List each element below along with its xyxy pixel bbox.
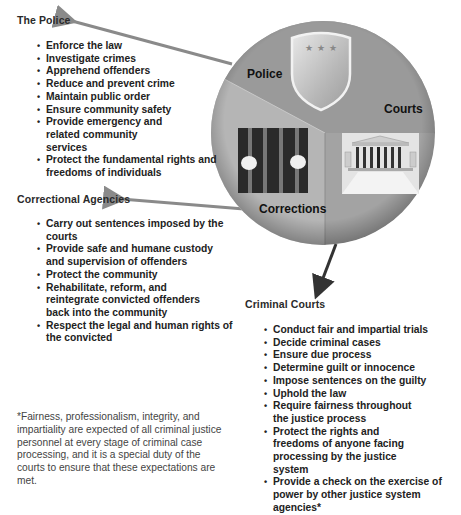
corrections-responsibilities-list: Carry out sentences imposed by the court… [37,218,237,345]
list-item: Ensure due process [264,349,459,362]
shield-icon: ★ ★ ★ [292,33,350,110]
list-item: Require fairness throughout the justice … [264,400,423,425]
courts-heading: Criminal Courts [245,298,325,310]
svg-text:★: ★ [305,43,313,53]
footnote: *Fairness, professionalism, integrity, a… [17,411,227,488]
list-item: Uphold the law [264,388,459,401]
list-item: Protect the fundamental rights and freed… [37,154,221,179]
list-item: Provide emergency and related community … [37,116,171,154]
courthouse-icon [342,133,419,194]
segment-label-courts: Courts [384,102,423,116]
list-item: Conduct fair and impartial trials [264,324,459,337]
list-item: Reduce and prevent crime [37,78,227,91]
svg-text:★: ★ [329,43,337,53]
list-item: Apprehend offenders [37,65,227,78]
list-item: Enforce the law [37,40,227,53]
police-heading: The Police [17,14,71,26]
list-item: Rehabilitate, reform, and reintegrate co… [37,282,221,320]
list-item: Decide criminal cases [264,337,459,350]
police-responsibilities-list: Enforce the law Investigate crimes Appre… [37,40,227,180]
corrections-heading: Correctional Agencies [17,193,130,205]
list-item: Provide safe and humane custody and supe… [37,243,231,268]
corrections-arrow [121,199,244,209]
list-item: Protect the community [37,269,237,282]
list-item: Determine guilt or innocence [264,362,459,375]
courts-arrow [317,244,336,294]
jail-bars-icon [238,128,308,193]
list-item: Provide a check on the exercise of power… [264,476,458,514]
list-item: Impose sentences on the guilty [264,375,459,388]
segment-label-police: Police [247,67,283,81]
list-item: Investigate crimes [37,53,227,66]
courts-responsibilities-list: Conduct fair and impartial trials Decide… [264,324,459,515]
list-item: Maintain public order [37,91,227,104]
svg-text:★: ★ [317,43,325,53]
segment-label-corrections: Corrections [259,202,327,216]
list-item: Respect the legal and human rights of th… [37,320,236,345]
list-item: Ensure community safety [37,104,227,117]
list-item: Carry out sentences imposed by the court… [37,218,237,243]
list-item: Protect the rights and freedoms of anyon… [264,426,423,477]
